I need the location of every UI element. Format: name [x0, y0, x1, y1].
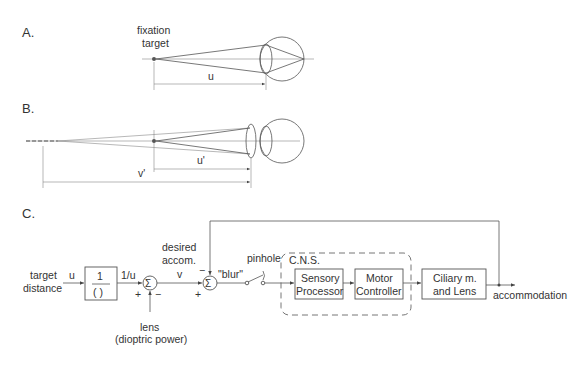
- panel-a-label: A.: [22, 25, 34, 40]
- pinhole-label: pinhole: [247, 252, 281, 264]
- sum2-symbol: Σ: [205, 278, 211, 289]
- accommodation-label: accommodation: [493, 289, 567, 301]
- pinhole-switch-icon: [248, 275, 263, 282]
- sum1-symbol: Σ: [145, 278, 151, 289]
- sensory-label-1: Sensory: [301, 272, 340, 284]
- switch-contact-2: [261, 281, 265, 285]
- accommodation-diagram: A. fixation target u B.: [0, 0, 583, 366]
- ciliary-label-1: Ciliary m.: [433, 272, 477, 284]
- u-prime-label: u': [197, 154, 205, 166]
- fixation-target-label-2: target: [142, 37, 169, 49]
- blur-label: "blur": [218, 268, 243, 280]
- fixation-target-label-1: fixation: [137, 24, 170, 36]
- motor-label-2: Controller: [356, 285, 402, 297]
- panel-b: B. u' v': [22, 101, 304, 188]
- target-distance-label-2: distance: [23, 282, 62, 294]
- switch-arc: [263, 271, 265, 280]
- sensory-label-2: Processor: [296, 285, 344, 297]
- desired-accom-label-2: accom.: [162, 254, 196, 266]
- v-signal-label: v: [177, 268, 183, 280]
- lens-label-2: (dioptric power): [115, 333, 187, 345]
- sum1-minus: −: [155, 288, 161, 300]
- ray-lower-b: [156, 141, 250, 154]
- ciliary-label-2: and Lens: [433, 285, 476, 297]
- panel-b-label: B.: [22, 101, 34, 116]
- ray-upper-b: [156, 128, 250, 141]
- panel-c: C. target distance u 1 ( ) 1/u Σ + − len…: [22, 206, 567, 345]
- sum2-minus: −: [199, 264, 205, 276]
- panel-c-label: C.: [22, 206, 35, 221]
- ray-upper-a: [156, 45, 266, 59]
- reciprocal-denominator: ( ): [93, 286, 103, 298]
- sum2-plus: +: [195, 288, 201, 300]
- desired-accom-label-1: desired: [162, 241, 197, 253]
- motor-label-1: Motor: [366, 272, 393, 284]
- u-signal-label: u: [69, 269, 75, 281]
- v-prime-label: v': [138, 167, 145, 179]
- target-distance-label-1: target: [30, 269, 57, 281]
- panel-a: A. fixation target u: [22, 24, 314, 90]
- reciprocal-output-label: 1/u: [121, 269, 136, 281]
- fixation-target-icon-b: [152, 139, 156, 143]
- reciprocal-numerator: 1: [97, 270, 103, 282]
- sum1-plus: +: [135, 288, 141, 300]
- fixation-target-icon: [152, 57, 156, 61]
- u-label-a: u: [208, 70, 214, 82]
- lens-label-1: lens: [140, 321, 159, 333]
- cns-label: C.N.S.: [289, 254, 320, 266]
